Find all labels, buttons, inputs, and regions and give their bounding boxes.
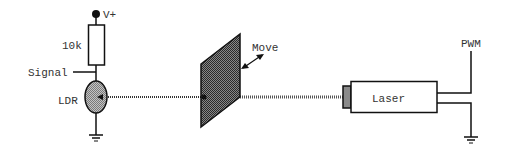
ground-ldr-icon: [89, 135, 103, 141]
plate-icon: [201, 34, 240, 127]
ldr: LDR: [58, 81, 107, 113]
laser-label: Laser: [372, 93, 405, 105]
resistor-label: 10k: [62, 40, 82, 52]
beam-entry-dot-icon: [202, 95, 207, 100]
pwm-label: PWM: [461, 38, 481, 50]
ldr-label: LDR: [58, 95, 78, 107]
moving-plate: [201, 34, 240, 127]
laser-lens-icon: [343, 86, 351, 108]
circuit-diagram: V+ 10k Signal LDR Move: [0, 0, 509, 155]
move-arrowhead-down-icon: [241, 63, 249, 69]
move-label: Move: [252, 42, 278, 54]
vplus-label: V+: [103, 9, 116, 21]
pwm-input: PWM: [437, 38, 481, 93]
laser: Laser: [343, 82, 437, 113]
move-indicator: Move: [241, 42, 278, 69]
resistor-body-icon: [89, 25, 105, 65]
move-arrowhead-up-icon: [256, 54, 264, 60]
ground-laser-icon: [464, 137, 478, 143]
signal-output: Signal: [28, 67, 96, 79]
resistor: 10k: [62, 25, 105, 65]
signal-label: Signal: [28, 67, 68, 79]
ground-laser: [437, 103, 478, 143]
laser-ground-wire: [437, 103, 471, 137]
pwm-wire: [437, 51, 471, 93]
ldr-body-icon: [85, 81, 107, 113]
